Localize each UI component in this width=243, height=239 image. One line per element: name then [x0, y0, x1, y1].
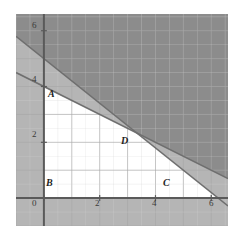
- x-tick-label-6: 6: [209, 199, 214, 208]
- linear-programming-figure: 0 2 4 6 6 4 2 A B C D: [0, 0, 243, 239]
- x-tick-label-2: 2: [95, 199, 100, 208]
- point-label-d: D: [121, 136, 128, 146]
- point-label-b: B: [46, 178, 53, 188]
- y-tick-label-4: 4: [32, 75, 37, 84]
- y-tick-label-2: 2: [32, 130, 37, 139]
- point-label-c: C: [163, 178, 170, 188]
- point-label-a: A: [48, 89, 55, 99]
- plot-area: [16, 14, 228, 226]
- x-tick-label-0: 0: [32, 199, 37, 208]
- plot-svg: [16, 14, 228, 226]
- y-tick-label-6: 6: [32, 21, 37, 30]
- x-tick-label-4: 4: [152, 199, 157, 208]
